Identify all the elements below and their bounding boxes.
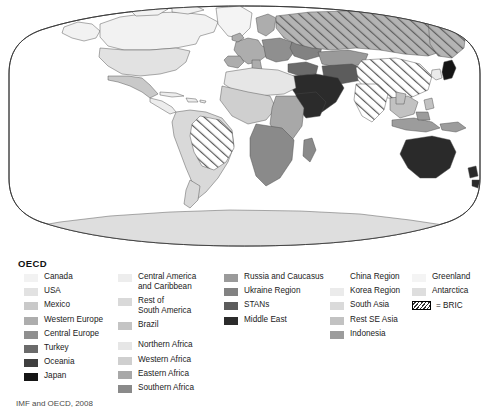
bric-hatch-swatch bbox=[412, 301, 431, 310]
legend-swatch bbox=[24, 288, 38, 296]
legend-swatch bbox=[24, 317, 38, 325]
legend-swatch bbox=[118, 274, 132, 282]
source-caption: IMF and OECD, 2008 bbox=[16, 399, 93, 410]
legend-swatch bbox=[412, 274, 426, 282]
legend-swatch bbox=[118, 385, 132, 393]
legend-swatch bbox=[330, 288, 344, 296]
legend-title: OECD bbox=[18, 258, 47, 269]
legend-swatch bbox=[24, 345, 38, 353]
legend-item-label: Canada bbox=[44, 272, 73, 282]
legend-swatch bbox=[118, 322, 132, 330]
legend-item: South Asia bbox=[330, 300, 410, 311]
legend-item: Canada bbox=[24, 272, 124, 283]
legend-item-label: Southern Africa bbox=[138, 383, 194, 393]
legend-item-label: China Region bbox=[350, 272, 400, 282]
bric-key-label: = BRIC bbox=[436, 301, 463, 310]
legend-item: Oceania bbox=[24, 357, 124, 368]
legend-swatch bbox=[118, 298, 132, 306]
legend-item-label: Turkey bbox=[44, 343, 69, 353]
legend-item: USA bbox=[24, 286, 124, 297]
legend-item-label: Rest SE Asia bbox=[350, 315, 398, 325]
legend-item: Indonesia bbox=[330, 329, 410, 340]
legend-swatch bbox=[24, 274, 38, 282]
legend-swatch bbox=[224, 274, 238, 282]
legend-swatch bbox=[224, 302, 238, 310]
legend-item-label: Antarctica bbox=[432, 286, 468, 296]
legend-item: Eastern Africa bbox=[118, 369, 222, 380]
legend-item: Western Europe bbox=[24, 315, 124, 326]
legend-item: Central America and Caribbean bbox=[118, 272, 222, 293]
legend-item: Southern Africa bbox=[118, 383, 222, 394]
legend-item-label: USA bbox=[44, 286, 61, 296]
legend-column-americas-africa: Central America and CaribbeanRest of Sou… bbox=[118, 272, 222, 397]
legend-item-label: Oceania bbox=[44, 357, 75, 367]
legend-item: Rest of South America bbox=[118, 296, 222, 317]
legend-swatch bbox=[330, 302, 344, 310]
region-rest-se-asia-indochina bbox=[396, 92, 406, 104]
region-indonesia-borneo bbox=[416, 112, 430, 120]
legend-item-label: Mexico bbox=[44, 300, 70, 310]
legend-item: China Region bbox=[330, 272, 410, 283]
legend-item: Western Africa bbox=[118, 355, 222, 366]
legend-item-label: Japan bbox=[44, 371, 66, 381]
legend-item: Greenland bbox=[412, 272, 487, 283]
legend-column-oecd: CanadaUSAMexicoWestern EuropeCentral Eur… bbox=[24, 272, 124, 386]
legend-item-label: Ukraine Region bbox=[244, 286, 300, 296]
legend-item: Middle East bbox=[224, 315, 324, 326]
legend-item-label: Western Europe bbox=[44, 315, 103, 325]
legend-item: Ukraine Region bbox=[224, 286, 324, 297]
region-philippines bbox=[424, 98, 434, 110]
bric-key-row: = BRIC bbox=[412, 301, 487, 310]
legend-swatch bbox=[224, 317, 238, 325]
legend-item-label: Western Africa bbox=[138, 355, 191, 365]
map-legend: OECD CanadaUSAMexicoWestern EuropeCentra… bbox=[0, 252, 489, 410]
legend-item-label: Russia and Caucasus bbox=[244, 272, 324, 282]
legend-item: STANs bbox=[224, 300, 324, 311]
legend-item: Antarctica bbox=[412, 286, 487, 297]
legend-item: Northern Africa bbox=[118, 340, 222, 351]
legend-swatch bbox=[24, 373, 38, 381]
legend-swatch bbox=[118, 357, 132, 365]
legend-item-label: Middle East bbox=[244, 315, 287, 325]
legend-item: Central Europe bbox=[24, 329, 124, 340]
legend-item-label: Rest of South America bbox=[138, 296, 191, 316]
region-central-europe bbox=[262, 38, 294, 62]
legend-item-label: Korea Region bbox=[350, 286, 400, 296]
world-map-svg bbox=[0, 0, 489, 252]
legend-swatch bbox=[330, 317, 344, 325]
legend-swatch bbox=[330, 331, 344, 339]
legend-column-asia: China RegionKorea RegionSouth AsiaRest S… bbox=[330, 272, 410, 343]
legend-item-label: STANs bbox=[244, 300, 269, 310]
legend-item: Japan bbox=[24, 371, 124, 382]
legend-item: Rest SE Asia bbox=[330, 315, 410, 326]
legend-item-label: South Asia bbox=[350, 300, 389, 310]
legend-swatch bbox=[24, 359, 38, 367]
legend-item: Korea Region bbox=[330, 286, 410, 297]
legend-item: Mexico bbox=[24, 300, 124, 311]
legend-swatch bbox=[118, 342, 132, 350]
legend-item: Brazil bbox=[118, 320, 222, 331]
world-map bbox=[0, 0, 489, 252]
legend-swatch bbox=[24, 331, 38, 339]
legend-item-label: Eastern Africa bbox=[138, 369, 189, 379]
legend-item-label: Central America and Caribbean bbox=[138, 272, 196, 292]
legend-item: Russia and Caucasus bbox=[224, 272, 324, 283]
legend-swatch bbox=[224, 288, 238, 296]
legend-swatch bbox=[24, 302, 38, 310]
legend-item-label: Northern Africa bbox=[138, 340, 193, 350]
map-figure-page: OECD CanadaUSAMexicoWestern EuropeCentra… bbox=[0, 0, 489, 410]
region-new-zealand-1 bbox=[468, 166, 478, 178]
legend-swatch bbox=[118, 371, 132, 379]
legend-column-eurasia: Russia and CaucasusUkraine RegionSTANsMi… bbox=[224, 272, 324, 329]
legend-swatch bbox=[330, 274, 344, 282]
legend-item-label: Brazil bbox=[138, 320, 158, 330]
legend-swatch bbox=[412, 288, 426, 296]
legend-item-label: Central Europe bbox=[44, 329, 99, 339]
legend-item: Turkey bbox=[24, 343, 124, 354]
legend-column-polar: GreenlandAntarctica = BRIC bbox=[412, 272, 487, 310]
legend-item-label: Indonesia bbox=[350, 329, 386, 339]
legend-item-label: Greenland bbox=[432, 272, 470, 282]
